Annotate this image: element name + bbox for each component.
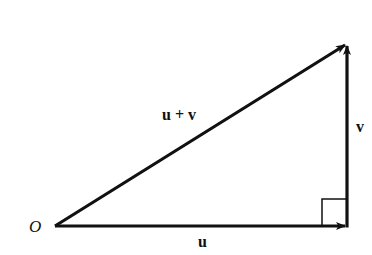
vector-u-label: u: [198, 234, 207, 250]
vector-sum-arrow: [55, 45, 345, 226]
vector-sum-label: u + v: [162, 107, 196, 123]
right-angle-marker: [322, 199, 347, 226]
origin-label: O: [29, 218, 41, 235]
vector-diagram: [0, 0, 372, 255]
vector-v-label: v: [356, 119, 364, 135]
